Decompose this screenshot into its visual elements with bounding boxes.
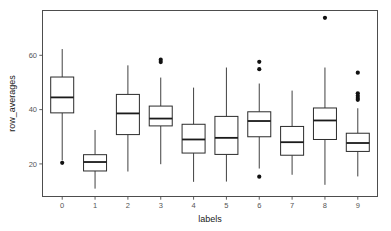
outlier-point — [323, 16, 327, 20]
outlier-point — [356, 98, 360, 102]
y-tick-label: 40 — [29, 105, 37, 114]
x-tick-label: 1 — [93, 201, 97, 210]
x-tick-label: 3 — [159, 201, 163, 210]
outlier-point — [356, 71, 360, 75]
box-iqr — [281, 126, 304, 155]
outlier-point — [257, 175, 261, 179]
plot-canvas: 204060 0123456789 labels row_averages — [0, 0, 391, 231]
outlier-point — [257, 67, 261, 71]
box-iqr — [248, 112, 271, 137]
x-tick-label: 6 — [257, 201, 261, 210]
box-iqr — [116, 94, 139, 134]
outlier-point — [60, 161, 64, 165]
x-axis-title: labels — [198, 214, 222, 224]
boxplot-figure: 204060 0123456789 labels row_averages — [0, 0, 391, 231]
x-tick-label: 9 — [356, 201, 360, 210]
box-iqr — [313, 108, 336, 139]
x-tick-label: 5 — [224, 201, 228, 210]
x-tick-label: 0 — [60, 201, 64, 210]
x-tick-label: 2 — [126, 201, 130, 210]
x-tick-label: 8 — [323, 201, 327, 210]
outlier-point — [257, 60, 261, 64]
box-iqr — [149, 106, 172, 126]
x-tick-label: 7 — [290, 201, 294, 210]
x-tick-label: 4 — [191, 201, 195, 210]
y-tick-label: 60 — [29, 51, 37, 60]
y-axis-title: row_averages — [7, 75, 17, 132]
box-iqr — [51, 77, 74, 113]
y-tick-label: 20 — [29, 160, 37, 169]
outlier-point — [159, 58, 163, 62]
box-iqr — [215, 116, 238, 154]
